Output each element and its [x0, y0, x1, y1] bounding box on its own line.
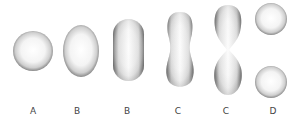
stage-label-d: D — [263, 106, 283, 116]
stage-label-b2: B — [117, 106, 137, 116]
stage-a-sphere — [13, 31, 53, 71]
drop-division-diagram: A B B C C D — [0, 0, 301, 124]
stage-label-c1: C — [168, 106, 188, 116]
stage-label-a: A — [23, 106, 43, 116]
stage-b-capsule — [113, 19, 144, 81]
stage-c-peanut — [166, 12, 193, 87]
stage-b-ellipsoid — [63, 25, 99, 77]
stages-illustration — [0, 0, 301, 124]
stage-label-c2: C — [216, 106, 236, 116]
stage-d-two-spheres — [255, 3, 287, 98]
stage-c-hourglass — [214, 5, 242, 95]
stage-label-b1: B — [67, 106, 87, 116]
